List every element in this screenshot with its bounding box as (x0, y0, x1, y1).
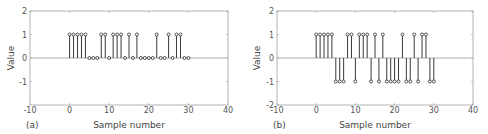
x-tick-label: 40 (223, 106, 233, 115)
stem-marker (183, 57, 186, 60)
x-tick-label: 40 (468, 106, 478, 115)
stem-marker (385, 80, 388, 83)
stem-marker (421, 33, 424, 36)
stem-marker (128, 33, 131, 36)
y-axis-label: Value (252, 45, 262, 70)
stem-marker (397, 80, 400, 83)
stem-marker (104, 33, 107, 36)
x-tick-label: 10 (350, 106, 360, 115)
stem-marker (428, 80, 431, 83)
stem-marker (315, 33, 318, 36)
stem-marker (342, 80, 345, 83)
stem-marker (139, 57, 142, 60)
stem-marker (68, 33, 71, 36)
chart-panel-b: -10010203040210-1-2Sample numberValue(b) (252, 7, 478, 130)
y-tick-label: -1 (266, 78, 274, 87)
x-tick-label: 10 (104, 106, 114, 115)
stem-marker (88, 57, 91, 60)
stem-marker (92, 57, 95, 60)
x-tick-label: 30 (429, 106, 439, 115)
stem-marker (424, 33, 427, 36)
panel-label: (b) (273, 120, 286, 130)
stem-marker (72, 33, 75, 36)
stem-marker (358, 33, 361, 36)
x-tick-label: -10 (23, 106, 36, 115)
stem-marker (366, 33, 369, 36)
stem-marker (389, 80, 392, 83)
stem-marker (163, 57, 166, 60)
y-tick-label: 2 (22, 7, 27, 16)
stem-marker (370, 80, 373, 83)
stem-marker (120, 33, 123, 36)
stem-marker (135, 33, 138, 36)
stem-marker (377, 80, 380, 83)
stem-marker (354, 80, 357, 83)
stem-marker (413, 33, 416, 36)
stem-marker (330, 33, 333, 36)
stem-marker (100, 33, 103, 36)
chart-panel-a: -10010203040210-1Sample numberValue(a) (6, 7, 233, 130)
stem-marker (393, 80, 396, 83)
stem-marker (350, 33, 353, 36)
stem-marker (187, 57, 190, 60)
stem-marker (417, 80, 420, 83)
stem-marker (96, 57, 99, 60)
y-tick-label: 0 (269, 54, 274, 63)
stem-marker (84, 33, 87, 36)
stem-marker (338, 80, 341, 83)
stem-marker (76, 33, 79, 36)
x-tick-label: 0 (314, 106, 319, 115)
stem-marker (409, 80, 412, 83)
x-tick-label: 20 (144, 106, 154, 115)
stem-marker (405, 80, 408, 83)
stem-marker (362, 33, 365, 36)
stem-marker (112, 33, 115, 36)
stem-marker (374, 33, 377, 36)
y-tick-label: -1 (19, 78, 27, 87)
stem-marker (167, 33, 170, 36)
stem-marker (108, 57, 111, 60)
stem-marker (80, 33, 83, 36)
stem-marker (326, 33, 329, 36)
stem-marker (346, 33, 349, 36)
stem-marker (432, 80, 435, 83)
y-tick-label: 1 (22, 31, 27, 40)
x-axis-label: Sample number (339, 120, 411, 130)
x-axis-label: Sample number (93, 120, 165, 130)
x-tick-label: 30 (183, 106, 193, 115)
stem-marker (175, 33, 178, 36)
x-tick-label: 0 (67, 106, 72, 115)
panel-label: (a) (26, 120, 39, 130)
stem-marker (124, 57, 127, 60)
stem-marker (131, 57, 134, 60)
figure: -10010203040210-1Sample numberValue(a) -… (0, 0, 488, 134)
stem-marker (323, 33, 326, 36)
x-tick-label: 20 (390, 106, 400, 115)
y-tick-label: 2 (269, 7, 274, 16)
y-axis-label: Value (6, 45, 16, 70)
stem-marker (143, 57, 146, 60)
stem-marker (319, 33, 322, 36)
stem-marker (151, 57, 154, 60)
stem-marker (179, 33, 182, 36)
y-tick-label: -2 (266, 101, 274, 110)
stem-marker (334, 80, 337, 83)
stem-marker (155, 33, 158, 36)
stem-marker (116, 33, 119, 36)
stem-marker (159, 57, 162, 60)
stem-marker (147, 57, 150, 60)
stem-marker (171, 57, 174, 60)
y-tick-label: 1 (269, 31, 274, 40)
y-tick-label: 0 (22, 54, 27, 63)
stem-marker (381, 33, 384, 36)
stem-marker (401, 33, 404, 36)
